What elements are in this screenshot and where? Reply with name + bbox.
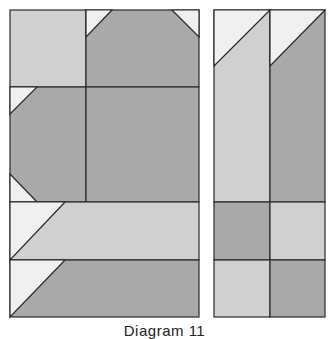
snowball-block-top xyxy=(86,10,199,87)
dark-square xyxy=(214,202,270,260)
left-quilt-block xyxy=(10,10,199,317)
light-square xyxy=(10,10,86,87)
right-quilt-block xyxy=(214,10,325,317)
snowball-block-left xyxy=(10,87,86,202)
light-square xyxy=(270,202,325,260)
light-square xyxy=(214,260,270,317)
diagram-caption: Diagram 11 xyxy=(0,322,329,339)
dark-square xyxy=(270,260,325,317)
dark-square xyxy=(86,87,199,202)
